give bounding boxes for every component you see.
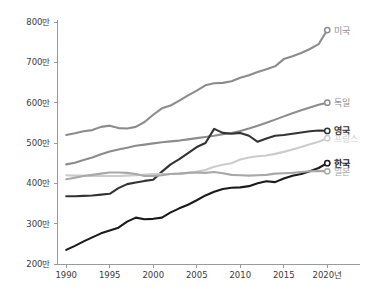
- series-end-markers: [325, 27, 330, 173]
- series-line-미국: [66, 30, 327, 135]
- end-marker-미국: [325, 27, 330, 32]
- series-lines: [66, 30, 327, 250]
- y-tick-label: 200만: [26, 259, 50, 269]
- end-marker-일본: [325, 169, 330, 174]
- end-marker-한국: [325, 161, 330, 166]
- x-axis: 1990199520002005201020152020년: [55, 264, 360, 280]
- end-marker-프랑스: [325, 136, 330, 141]
- series-labels: 미국독일영국프랑스한국일본: [334, 26, 358, 177]
- x-tick-label: 2010: [229, 270, 251, 280]
- y-tick-label: 700만: [26, 57, 50, 67]
- y-axis: 200만300만400만500만600만700만800만: [26, 17, 57, 269]
- line-chart-container: 200만300만400만500만600만700만800만 19901995200…: [0, 0, 381, 301]
- x-tick-label: 1990: [55, 270, 77, 280]
- x-tick-label: 2020년: [312, 270, 342, 280]
- end-marker-영국: [325, 128, 330, 133]
- y-tick-label: 500만: [26, 138, 50, 148]
- y-tick-label: 800만: [26, 17, 50, 27]
- series-label-미국: 미국: [334, 26, 350, 36]
- x-tick-label: 2005: [186, 270, 208, 280]
- chart-svg: 200만300만400만500만600만700만800만 19901995200…: [0, 0, 381, 301]
- x-tick-label: 2015: [273, 270, 295, 280]
- y-tick-label: 600만: [26, 98, 50, 108]
- series-label-프랑스: 프랑스: [334, 133, 358, 144]
- y-tick-label: 300만: [26, 219, 50, 229]
- y-tick-label: 400만: [26, 178, 50, 188]
- end-marker-독일: [325, 100, 330, 105]
- series-label-일본: 일본: [334, 167, 350, 177]
- series-line-프랑스: [66, 138, 327, 176]
- series-label-독일: 독일: [334, 98, 350, 108]
- x-tick-label: 1995: [99, 270, 121, 280]
- x-tick-label: 2000: [142, 270, 164, 280]
